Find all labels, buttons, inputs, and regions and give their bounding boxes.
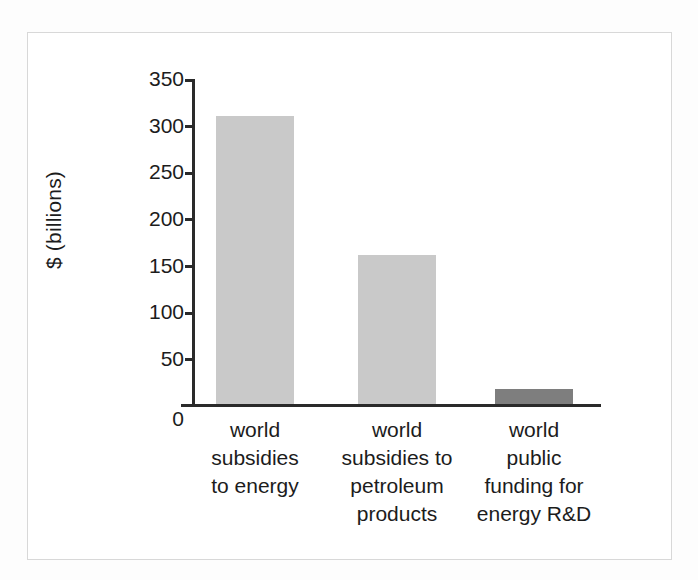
x-axis-category-label-line: energy R&D xyxy=(458,500,610,528)
x-axis-category-label: worldpublicfunding forenergy R&D xyxy=(458,416,610,528)
x-axis-category-label-line: to energy xyxy=(180,472,330,500)
bars-group xyxy=(0,0,698,405)
figure-container: $ (billions) 350 300 250 200 150 100 50 … xyxy=(0,0,698,580)
x-axis-category-label-line: subsidies to xyxy=(318,444,476,472)
bar-chart: $ (billions) 350 300 250 200 150 100 50 … xyxy=(0,0,698,580)
x-axis-category-label-line: public xyxy=(458,444,610,472)
x-axis-category-label-line: funding for xyxy=(458,472,610,500)
x-axis-category-label-line: products xyxy=(318,500,476,528)
bar-world-subsidies-to-energy[interactable] xyxy=(216,116,294,404)
bar-world-subsidies-to-petroleum-products[interactable] xyxy=(358,255,436,404)
x-axis-category-label-line: world xyxy=(180,416,330,444)
y-tick-label: 0 xyxy=(126,408,184,429)
x-axis-category-label: worldsubsidiesto energy xyxy=(180,416,330,500)
x-axis-category-label-line: world xyxy=(458,416,610,444)
x-axis-category-label-line: world xyxy=(318,416,476,444)
x-axis-category-label: worldsubsidies topetroleumproducts xyxy=(318,416,476,528)
x-axis-category-label-line: subsidies xyxy=(180,444,330,472)
bar-world-public-funding-for-energy-rd[interactable] xyxy=(495,389,573,404)
x-axis-category-label-line: petroleum xyxy=(318,472,476,500)
